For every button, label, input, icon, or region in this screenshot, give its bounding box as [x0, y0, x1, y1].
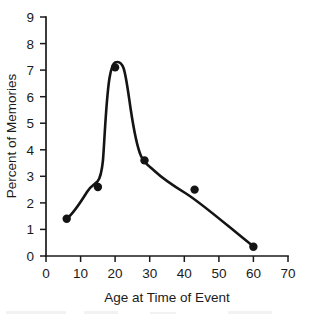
x-tick-label: 50	[211, 266, 226, 281]
x-axis-ticks	[46, 256, 288, 262]
scan-artifact	[84, 311, 118, 314]
scan-artifact	[6, 311, 66, 314]
y-tick-label: 5	[26, 116, 34, 131]
data-point	[190, 185, 198, 193]
scan-artifact	[228, 311, 272, 314]
y-axis-title: Percent of Memories	[4, 73, 19, 198]
data-point	[62, 215, 70, 223]
x-tick-label: 30	[142, 266, 157, 281]
memory-distribution-chart: 0 1 2 3 4 5 6 7 8 9 0 10 20 30	[0, 0, 309, 319]
data-point	[94, 183, 102, 191]
y-tick-label: 9	[26, 10, 34, 25]
data-point-markers	[62, 63, 257, 251]
chart-canvas: 0 1 2 3 4 5 6 7 8 9 0 10 20 30	[0, 0, 309, 319]
y-tick-label: 6	[26, 90, 34, 105]
scan-artifact	[150, 312, 176, 314]
x-tick-label: 40	[177, 266, 192, 281]
data-point	[111, 63, 119, 71]
x-tick-label: 70	[280, 266, 295, 281]
y-axis-ticks	[40, 17, 46, 256]
fitted-curve	[67, 62, 254, 247]
x-axis-title: Age at Time of Event	[104, 290, 230, 305]
data-point	[249, 243, 257, 251]
x-axis-tick-labels: 0 10 20 30 40 50 60 70	[42, 266, 295, 281]
data-point	[140, 156, 148, 164]
x-tick-label: 60	[246, 266, 261, 281]
x-tick-label: 20	[108, 266, 123, 281]
x-tick-label: 0	[42, 266, 50, 281]
y-tick-label: 8	[26, 37, 34, 52]
y-tick-label: 7	[26, 63, 34, 78]
y-tick-label: 3	[26, 169, 34, 184]
y-tick-label: 4	[26, 143, 34, 158]
y-tick-label: 1	[26, 222, 34, 237]
x-tick-label: 10	[73, 266, 88, 281]
y-axis-tick-labels: 0 1 2 3 4 5 6 7 8 9	[26, 10, 34, 264]
y-tick-label: 2	[26, 196, 34, 211]
y-tick-label: 0	[26, 249, 34, 264]
